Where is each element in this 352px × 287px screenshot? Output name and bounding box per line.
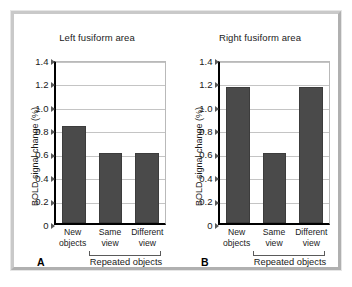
x-tick-label-line: Same bbox=[255, 227, 292, 238]
x-tick-label-line: view bbox=[129, 238, 166, 249]
y-tick-mark-icon bbox=[51, 82, 55, 88]
y-tick-mark-icon bbox=[215, 176, 219, 182]
y-tick-label: 1.2 bbox=[35, 80, 48, 91]
y-tick-mark-icon bbox=[51, 106, 55, 112]
y-tick-label: 0.6 bbox=[35, 150, 48, 161]
x-tick-label-line: objects bbox=[218, 238, 255, 249]
x-tick-label-line: objects bbox=[54, 238, 91, 249]
y-tick-label: 0.8 bbox=[199, 127, 212, 138]
bar bbox=[62, 126, 85, 223]
panel-a-axes: 00.20.40.60.81.01.21.4 bbox=[54, 61, 166, 225]
y-tick-label: 0.4 bbox=[35, 174, 48, 185]
y-tick-label: 0.6 bbox=[199, 150, 212, 161]
x-tick-label-line: Different bbox=[129, 227, 166, 238]
panel-a-x-axis-label: Repeated objects bbox=[74, 257, 178, 267]
panel-a-bars bbox=[56, 62, 165, 223]
chart-panels: Left fusiform area BOLD signal change (%… bbox=[14, 14, 338, 267]
x-tick-label-line: view bbox=[255, 238, 292, 249]
x-tick-label-line: Same bbox=[91, 227, 128, 238]
y-tick-mark-icon bbox=[215, 153, 219, 159]
x-tick-label-line: New bbox=[54, 227, 91, 238]
x-tick-label-line: Different bbox=[293, 227, 330, 238]
panel-a-group-bracket bbox=[89, 251, 161, 256]
y-tick-label: 0.8 bbox=[35, 127, 48, 138]
y-tick-mark-icon bbox=[215, 129, 219, 135]
x-tick-label-line: view bbox=[293, 238, 330, 249]
y-tick-mark-icon bbox=[51, 176, 55, 182]
x-tick-label-line: view bbox=[91, 238, 128, 249]
panel-a-title: Left fusiform area bbox=[18, 32, 176, 43]
y-tick-label: 0.2 bbox=[199, 197, 212, 208]
chart-panel-b: Right fusiform area BOLD signal change (… bbox=[176, 14, 338, 267]
x-tick-label: Newobjects bbox=[54, 227, 91, 248]
panel-b-axes: 00.20.40.60.81.01.21.4 bbox=[218, 61, 330, 225]
figure-frame: Left fusiform area BOLD signal change (%… bbox=[11, 11, 341, 270]
x-tick-label: Differentview bbox=[293, 227, 330, 248]
x-tick-label: Newobjects bbox=[218, 227, 255, 248]
y-tick-mark-icon bbox=[215, 59, 219, 65]
panel-b-x-axis-label: Repeated objects bbox=[238, 257, 342, 267]
y-tick-label: 0.4 bbox=[199, 174, 212, 185]
x-tick-label: Sameview bbox=[91, 227, 128, 248]
x-tick-label: Differentview bbox=[129, 227, 166, 248]
y-tick-mark-icon bbox=[51, 59, 55, 65]
bar bbox=[99, 153, 122, 223]
x-tick-label-line: New bbox=[218, 227, 255, 238]
y-tick-label: 0.2 bbox=[35, 197, 48, 208]
y-tick-mark-icon bbox=[215, 200, 219, 206]
y-tick-label: 1.4 bbox=[35, 57, 48, 68]
panel-a-letter: A bbox=[37, 256, 45, 268]
panel-a-plot-area: 00.20.40.60.81.01.21.4 bbox=[54, 61, 166, 225]
y-tick-mark-icon bbox=[215, 82, 219, 88]
y-tick-label: 1.0 bbox=[35, 104, 48, 115]
y-tick-mark-icon bbox=[51, 200, 55, 206]
y-tick-label: 0 bbox=[43, 221, 48, 232]
y-tick-label: 1.4 bbox=[199, 57, 212, 68]
y-tick-label: 0 bbox=[207, 221, 212, 232]
y-tick-mark-icon bbox=[51, 129, 55, 135]
y-tick-mark-icon bbox=[215, 106, 219, 112]
y-tick-label: 1.2 bbox=[199, 80, 212, 91]
panel-b-group-bracket bbox=[253, 251, 325, 256]
bar bbox=[226, 87, 249, 223]
panel-b-letter: B bbox=[201, 256, 209, 268]
x-tick-label: Sameview bbox=[255, 227, 292, 248]
bar bbox=[135, 153, 158, 223]
y-tick-label: 1.0 bbox=[199, 104, 212, 115]
panel-b-bars bbox=[220, 62, 329, 223]
chart-panel-a: Left fusiform area BOLD signal change (%… bbox=[18, 14, 176, 267]
panel-a-x-tick-labels: NewobjectsSameviewDifferentview bbox=[54, 227, 166, 251]
y-tick-mark-icon bbox=[51, 153, 55, 159]
bar bbox=[299, 87, 322, 223]
panel-b-title: Right fusiform area bbox=[176, 32, 338, 43]
bar bbox=[263, 153, 286, 223]
panel-b-plot-area: 00.20.40.60.81.01.21.4 bbox=[218, 61, 330, 225]
panel-b-x-tick-labels: NewobjectsSameviewDifferentview bbox=[218, 227, 330, 251]
